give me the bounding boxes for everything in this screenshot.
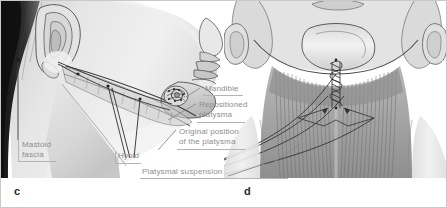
label-hyoid: Hyoid [118, 151, 139, 161]
label-original-position-rule [177, 149, 245, 150]
label-mandible-rule [203, 95, 243, 96]
label-mastoid-fascia: Mastoid fascia [22, 140, 51, 159]
label-mastoid-fascia-rule [18, 161, 56, 162]
figure-container: Mandible Repositioned platysma Original … [0, 0, 447, 208]
panel-letter-c: c [14, 185, 20, 197]
platysmal-suspension-leader [228, 164, 264, 176]
repositioned-platysma-leader [168, 104, 196, 120]
label-hyoid-rule [115, 163, 141, 164]
label-repositioned-platysma: Repositioned platysma [199, 100, 248, 119]
label-repositioned-platysma-rule [197, 122, 245, 123]
original-position-leader [158, 130, 176, 150]
label-platysmal-suspension-rule [140, 178, 288, 179]
label-platysmal-suspension: Platysmal suspension [142, 167, 222, 177]
label-original-position: Original position of the platysma [179, 127, 239, 146]
label-mandible: Mandible [205, 84, 239, 94]
platysmal-suspension-leader-2 [268, 144, 300, 166]
mandible-leader [186, 88, 200, 97]
panel-letter-d: d [244, 185, 251, 197]
label-mastoid-fascia-vrule [18, 140, 19, 162]
